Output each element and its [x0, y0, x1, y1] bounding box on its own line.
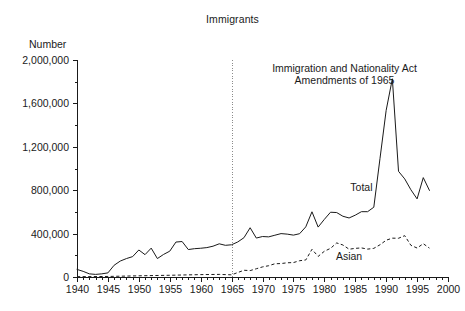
y-tick-label: 0	[63, 271, 69, 283]
y-axis-ticks: 0400,000800,0001,200,0001,600,0002,000,0…	[22, 54, 77, 283]
series-labels: TotalAsian	[336, 181, 373, 262]
axis-lines	[77, 60, 448, 277]
x-tick-label: 1970	[252, 283, 276, 295]
x-tick-label: 1985	[344, 283, 368, 295]
y-tick-label: 2,000,000	[22, 54, 69, 66]
x-tick-label: 2000	[437, 283, 461, 295]
series-label-total: Total	[350, 181, 372, 193]
x-tick-label: 1990	[375, 283, 399, 295]
series-line-asian	[77, 236, 429, 277]
y-tick-label: 1,600,000	[22, 97, 69, 109]
immigration-act-1965-text-line1: Immigration and Nationality Act	[272, 62, 417, 74]
x-tick-label: 1940	[66, 283, 90, 295]
plot-area: 0400,000800,0001,200,0001,600,0002,000,0…	[0, 0, 465, 311]
y-tick-label: 800,000	[31, 184, 69, 196]
data-series-layer	[77, 79, 429, 277]
x-tick-label: 1965	[221, 283, 245, 295]
x-axis-ticks: 1940194519501955196019651970197519801985…	[66, 277, 461, 295]
series-label-asian: Asian	[336, 250, 362, 262]
y-tick-label: 1,200,000	[22, 141, 69, 153]
x-tick-label: 1950	[128, 283, 152, 295]
series-line-total	[77, 79, 429, 275]
x-tick-label: 1995	[406, 283, 430, 295]
x-tick-label: 1960	[190, 283, 214, 295]
immigration-act-1965-text-line2: Amendments of 1965	[295, 74, 395, 86]
x-tick-label: 1980	[313, 283, 337, 295]
chart-figure: Immigrants Number 0400,000800,0001,200,0…	[0, 0, 465, 311]
y-tick-label: 400,000	[31, 228, 69, 240]
x-tick-label: 1955	[159, 283, 183, 295]
x-tick-label: 1975	[282, 283, 306, 295]
x-tick-label: 1945	[97, 283, 121, 295]
